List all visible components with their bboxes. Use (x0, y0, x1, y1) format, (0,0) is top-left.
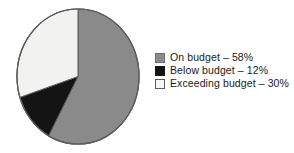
legend-swatch-below-budget (155, 66, 165, 76)
legend-label-below-budget: Below budget – 12% (170, 64, 268, 77)
legend-swatch-exceeding-budget (155, 79, 165, 89)
legend-label-exceeding-budget: Exceeding budget – 30% (170, 77, 289, 90)
legend-item-on-budget: On budget – 58% (155, 51, 291, 64)
legend-swatch-on-budget (155, 53, 165, 63)
legend-item-below-budget: Below budget – 12% (155, 64, 291, 77)
pie-chart-figure: On budget – 58% Below budget – 12% Excee… (0, 0, 294, 153)
pie-slices-group (17, 9, 139, 144)
pie-svg (16, 8, 140, 145)
legend-item-exceeding-budget: Exceeding budget – 30% (155, 77, 291, 90)
chart-legend: On budget – 58% Below budget – 12% Excee… (155, 51, 291, 90)
legend-label-on-budget: On budget – 58% (170, 51, 253, 64)
pie-chart-graphic (16, 8, 140, 145)
